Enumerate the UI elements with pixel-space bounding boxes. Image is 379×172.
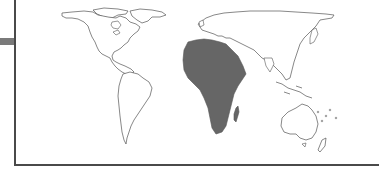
island xyxy=(317,111,319,113)
region-greenland[interactable] xyxy=(130,9,166,23)
island xyxy=(321,120,323,122)
pacific-islands xyxy=(317,109,337,122)
world-map xyxy=(0,0,379,172)
island xyxy=(325,115,327,117)
region-tasmania xyxy=(302,143,306,147)
region-new-zealand[interactable] xyxy=(318,138,326,152)
region-southeast-asia-islands xyxy=(276,82,312,98)
region-australia[interactable] xyxy=(281,104,318,140)
region-north-america[interactable] xyxy=(62,11,140,74)
island xyxy=(335,117,337,119)
region-south-america[interactable] xyxy=(118,72,152,144)
island xyxy=(329,109,331,111)
region-indian-subcontinent xyxy=(264,58,274,72)
region-madagascar[interactable] xyxy=(234,106,239,122)
